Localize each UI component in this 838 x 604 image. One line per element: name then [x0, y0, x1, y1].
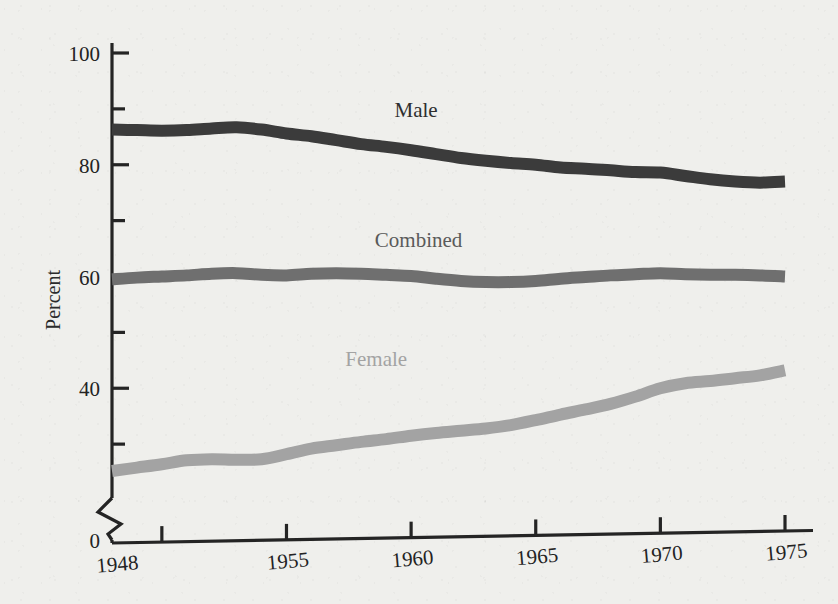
- line-chart: 0406080100Percent19551960196519701975194…: [0, 0, 838, 604]
- y-axis-tick-label: 0: [90, 529, 101, 553]
- series-line-male: [112, 127, 785, 182]
- x-axis-tick-label: 1960: [391, 545, 435, 573]
- y-axis-tick-label: 80: [79, 154, 100, 178]
- series-label-male: Male: [395, 98, 438, 122]
- x-axis-line: [112, 531, 813, 543]
- x-axis-tick-label: 1975: [764, 538, 808, 566]
- series-label-female: Female: [345, 347, 407, 371]
- y-axis-break-zigzag: [98, 498, 121, 540]
- x-axis-origin-label: 1948: [95, 550, 139, 578]
- chart-canvas: 0406080100Percent19551960196519701975194…: [0, 0, 838, 604]
- series-line-female: [112, 370, 785, 471]
- series-label-combined: Combined: [375, 228, 463, 252]
- x-axis-tick-label: 1955: [266, 547, 310, 575]
- series-line-combined: [112, 273, 785, 282]
- y-axis-tick-label: 40: [79, 377, 100, 401]
- axes-layer: 0406080100Percent19551960196519701975194…: [42, 42, 813, 578]
- y-axis-tick-label: 100: [69, 42, 101, 66]
- series-layer: [112, 127, 785, 471]
- y-axis-title: Percent: [42, 270, 64, 330]
- y-axis-tick-label: 60: [79, 266, 100, 290]
- x-axis-tick-label: 1965: [515, 543, 559, 571]
- x-axis-tick-label: 1970: [640, 540, 684, 568]
